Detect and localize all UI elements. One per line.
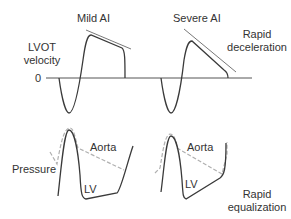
deceleration-label: deceleration: [222, 41, 291, 54]
rapid-deceleration-label: Rapid deceleration: [222, 28, 291, 54]
lvot-velocity-label: LVOT velocity: [22, 41, 62, 67]
mild-ai-velocity-trace: [59, 35, 125, 113]
mild-ai-slope-line: [86, 30, 131, 49]
severe-ai-title: Severe AI: [173, 12, 221, 25]
rapid-label-2: Rapid: [222, 188, 291, 201]
mild-lv-label: LV: [84, 183, 97, 196]
rapid-label: Rapid: [222, 28, 291, 41]
equalization-label: equalization: [222, 201, 291, 214]
severe-lv-label: LV: [185, 178, 198, 191]
mild-aorta-label: Aorta: [90, 141, 116, 154]
severe-ai-velocity-trace: [161, 41, 228, 113]
velocity-label: velocity: [22, 54, 62, 67]
zero-label: 0: [35, 72, 41, 85]
severe-aorta-label: Aorta: [187, 141, 213, 154]
pressure-label: Pressure: [12, 163, 56, 176]
lvot-label: LVOT: [22, 41, 62, 54]
mild-ai-title: Mild AI: [77, 12, 110, 25]
rapid-equalization-label: Rapid equalization: [222, 188, 291, 214]
